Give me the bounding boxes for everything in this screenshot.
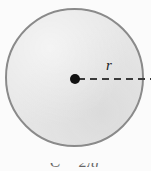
radius-dashed-line xyxy=(78,78,151,80)
center-point-dot xyxy=(70,74,80,84)
circle-radius-figure: r C = 2πr xyxy=(0,0,151,171)
caption-clip-region: C = 2πr xyxy=(0,163,151,171)
radius-label: r xyxy=(106,58,112,73)
circumference-formula-caption: C = 2πr xyxy=(0,163,151,170)
